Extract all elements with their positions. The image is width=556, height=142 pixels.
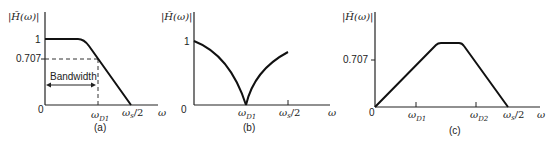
panel-c-xtick-wd1: ωD1	[408, 109, 426, 123]
panel-a-caption: (a)	[94, 122, 106, 133]
panel-c-xtick-wd2: ωD2	[470, 109, 489, 123]
panel-a-bandwidth-label: Bandwidth	[50, 71, 97, 82]
filter-response-figure: |H̄(ω)| 1 0.707 0 Bandwidth ωD1 ωs/2 ω (…	[0, 0, 556, 142]
panel-c-xtick-ws2: ωs/2	[503, 109, 524, 122]
panel-a-ytick-707: 0.707	[16, 53, 41, 64]
panel-b-ytick-0: 0	[181, 104, 187, 115]
panel-c-caption: (c)	[449, 125, 461, 136]
panel-a-ytick-0: 0	[38, 104, 44, 115]
panel-b-xtick-ws2: ωs/2	[279, 107, 300, 120]
panel-b-xlabel: ω	[328, 107, 336, 118]
panel-a-ylabel: |H̄(ω)|	[8, 11, 39, 23]
panel-a-xlabel: ω	[158, 107, 166, 118]
panel-a-ytick-1: 1	[35, 34, 41, 45]
arrowhead-left-icon	[46, 83, 51, 88]
panel-b-curve-left	[194, 41, 246, 105]
panel-b-caption: (b)	[243, 122, 255, 133]
panel-c: |H̄(ω)| 0.707 0 ωD1 ωD2 ωs/2 ω (c)	[342, 11, 545, 136]
panel-c-curve	[375, 43, 508, 107]
panel-b: |H̄(ω)| 1 0 ωD1 ωs/2 ω (b)	[161, 11, 336, 133]
panel-b-ylabel: |H̄(ω)|	[161, 11, 192, 23]
panel-a-xtick-ws2: ωs/2	[122, 107, 143, 120]
panel-c-ytick-707: 0.707	[343, 54, 368, 65]
panel-c-ytick-0: 0	[369, 107, 375, 118]
panel-b-ytick-1: 1	[184, 36, 190, 47]
panel-a: |H̄(ω)| 1 0.707 0 Bandwidth ωD1 ωs/2 ω (…	[8, 11, 166, 133]
panel-a-xtick-wd1: ωD1	[91, 109, 109, 123]
panel-c-xlabel: ω	[537, 109, 545, 120]
panel-b-xtick-wd1: ωD1	[238, 107, 256, 121]
arrowhead-right-icon	[91, 83, 96, 88]
panel-b-curve-right	[246, 52, 288, 105]
panel-c-ylabel: |H̄(ω)|	[342, 11, 373, 23]
